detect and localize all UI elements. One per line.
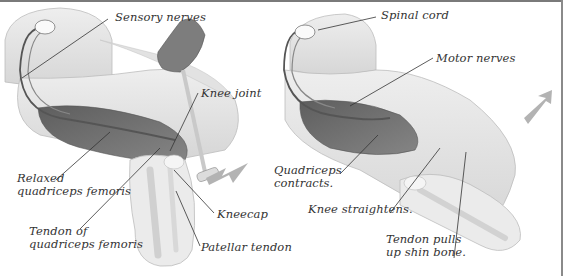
label-relaxed-quadriceps: Relaxed quadriceps femoris <box>17 172 131 198</box>
label-tendon-of-quadriceps: Tendon of quadriceps femoris <box>29 225 143 251</box>
label-line-2: contracts. <box>274 177 342 190</box>
label-line-2: quadriceps femoris <box>17 185 131 198</box>
label-spinal-cord: Spinal cord <box>381 9 449 22</box>
label-line-2: up shin bone. <box>386 246 466 259</box>
label-kneecap: Kneecap <box>217 208 268 221</box>
label-motor-nerves: Motor nerves <box>436 52 516 65</box>
label-tendon-pulls: Tendon pulls up shin bone. <box>386 233 466 259</box>
label-line-2: quadriceps femoris <box>29 238 143 251</box>
label-knee-joint: Knee joint <box>201 87 261 100</box>
label-sensory-nerves: Sensory nerves <box>115 11 206 24</box>
label-knee-straightens: Knee straightens. <box>308 203 413 216</box>
label-patellar-tendon: Patellar tendon <box>201 241 292 254</box>
label-quadriceps-contracts: Quadriceps contracts. <box>274 164 342 190</box>
